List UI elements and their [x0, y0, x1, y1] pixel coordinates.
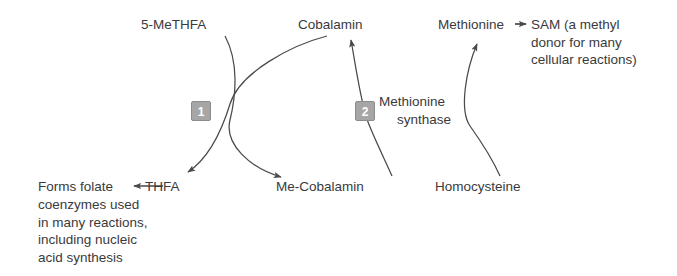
label-folate-note-line-3: including nucleic — [38, 231, 198, 249]
label-sam-line-2: donor for many — [531, 34, 671, 52]
label-sam-block: SAM (a methyl donor for many cellular re… — [531, 16, 671, 69]
label-methionine-synthase: Methionine synthase — [379, 93, 469, 128]
label-folate-note-line-4: acid synthesis — [38, 249, 198, 267]
reaction-number-box-2: 2 — [355, 101, 375, 121]
label-methionine: Methionine — [438, 16, 504, 33]
label-methionine-synthase-line-2: synthase — [379, 111, 469, 129]
label-forms-folate: Forms folate — [38, 178, 113, 195]
arrow-homocysteine-to-methionine — [464, 44, 500, 176]
label-me-cobalamin: Me-Cobalamin — [276, 178, 364, 195]
pathway-diagram: 5-MeTHFA Cobalamin Methionine SAM (a met… — [0, 0, 677, 276]
label-homocysteine: Homocysteine — [435, 178, 521, 195]
label-cobalamin: Cobalamin — [298, 16, 363, 33]
reaction-number-box-1: 1 — [191, 101, 211, 121]
label-thfa: THFA — [145, 178, 180, 195]
label-folate-note-line-1: coenzymes used — [38, 196, 198, 214]
label-sam-line-3: cellular reactions) — [531, 51, 671, 69]
label-folate-note-line-2: in many reactions, — [38, 214, 198, 232]
label-5-methfa: 5-MeTHFA — [141, 16, 206, 33]
arrow-methfa-to-mecobalamin — [225, 36, 281, 177]
label-folate-note-block: coenzymes used in many reactions, includ… — [38, 196, 198, 266]
label-methionine-synthase-line-1: Methionine — [379, 93, 469, 111]
label-sam-line-1: SAM (a methyl — [531, 16, 671, 34]
